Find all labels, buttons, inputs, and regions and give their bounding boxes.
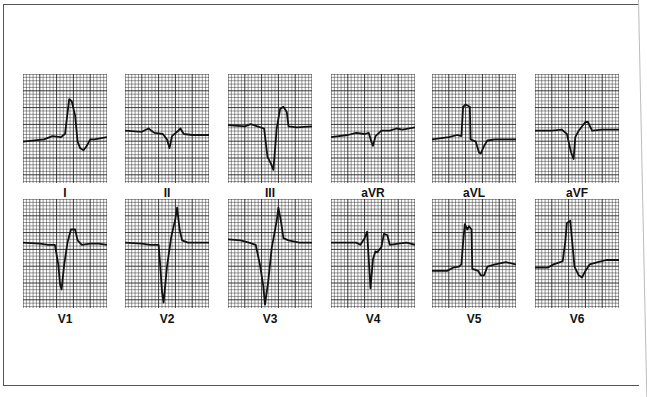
ecg-panel-avr	[331, 74, 415, 183]
ecg-panel-iii	[228, 74, 312, 183]
ecg-trace-avl	[432, 105, 516, 154]
ecg-panel-avl	[432, 74, 516, 183]
ecg-grid	[432, 74, 516, 183]
lead-label: aVF	[535, 186, 619, 200]
ecg-panel-v5	[432, 199, 516, 308]
ecg-panel-v6	[535, 199, 619, 308]
ecg-grid	[125, 199, 209, 308]
lead-label: I	[23, 186, 107, 200]
ecg-grid	[23, 74, 107, 183]
ecg-panel-v4	[331, 199, 415, 308]
ecg-grid	[331, 199, 415, 308]
lead-label: aVL	[432, 186, 516, 200]
lead-label: V2	[125, 312, 209, 326]
ecg-grid	[228, 199, 312, 308]
ecg-panel-ii	[125, 74, 209, 183]
ecg-trace-iii	[228, 107, 312, 170]
ecg-panel-v1	[23, 199, 107, 308]
ecg-grid	[535, 74, 619, 183]
ecg-grid	[432, 199, 516, 308]
ecg-trace-v2	[125, 208, 209, 303]
ecg-trace-avr	[331, 127, 415, 145]
lead-label: V5	[432, 312, 516, 326]
lead-label: II	[125, 186, 209, 200]
ecg-grid	[535, 199, 619, 308]
lead-label: V4	[331, 312, 415, 326]
ecg-trace-ii	[125, 129, 209, 149]
lead-label: V3	[228, 312, 312, 326]
ecg-panel-avf	[535, 74, 619, 183]
ecg-grid	[125, 74, 209, 183]
ecg-grid	[23, 199, 107, 308]
ecg-panel-v2	[125, 199, 209, 308]
ecg-panel-v3	[228, 199, 312, 308]
ecg-grid	[228, 74, 312, 183]
ecg-panel-i	[23, 74, 107, 183]
lead-label: III	[228, 186, 312, 200]
lead-label: V1	[23, 312, 107, 326]
lead-label: aVR	[331, 186, 415, 200]
lead-label: V6	[535, 312, 619, 326]
ecg-grid	[331, 74, 415, 183]
ecg-trace-v4	[331, 232, 415, 289]
page-edge	[638, 0, 647, 397]
